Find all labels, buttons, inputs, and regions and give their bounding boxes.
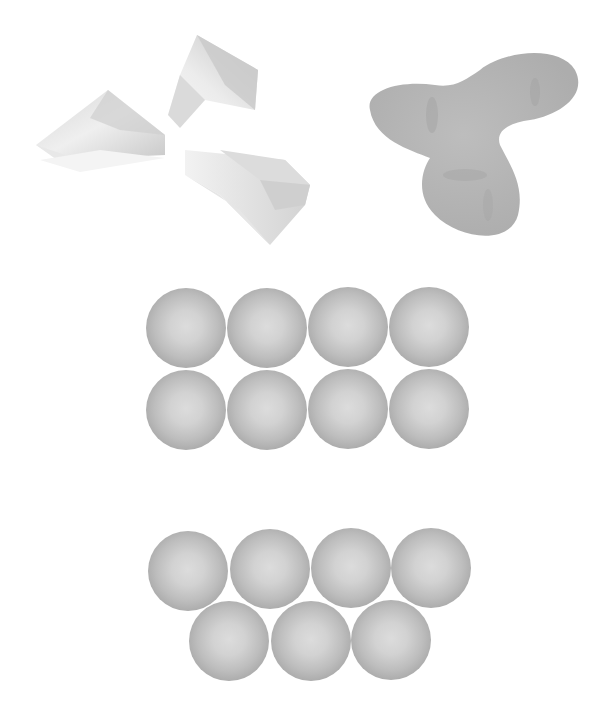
sphere	[189, 601, 269, 681]
sphere	[351, 600, 431, 680]
sphere	[230, 529, 310, 609]
sphere	[271, 601, 351, 681]
sphere	[391, 528, 471, 608]
figure	[0, 0, 610, 714]
sphere	[148, 531, 228, 611]
sphere	[311, 528, 391, 608]
hexagonal-packing-group	[0, 0, 610, 714]
